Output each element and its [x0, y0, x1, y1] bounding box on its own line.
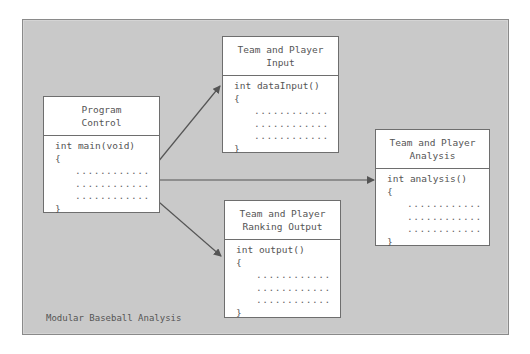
- module-team-player-ranking-output: Team and Player Ranking Output int outpu…: [224, 200, 341, 318]
- module-program-control: Program Control int main(void) { .......…: [43, 96, 160, 213]
- diagram-caption: Modular Baseball Analysis: [46, 313, 181, 323]
- close-brace: }: [55, 203, 159, 216]
- module-title: Team and Player Input: [223, 37, 338, 76]
- open-brace: {: [55, 153, 159, 166]
- function-signature: int analysis(): [387, 173, 489, 186]
- code-placeholder: ............: [234, 118, 338, 131]
- module-title: Team and Player Analysis: [376, 130, 489, 169]
- close-brace: }: [234, 143, 338, 156]
- code-placeholder: ............: [236, 269, 340, 282]
- module-body: int main(void) { ............ ..........…: [44, 136, 159, 215]
- module-team-player-input: Team and Player Input int dataInput() { …: [222, 36, 339, 153]
- code-placeholder: ............: [55, 165, 159, 178]
- open-brace: {: [236, 257, 340, 270]
- function-signature: int output(): [236, 244, 340, 257]
- code-placeholder: ............: [55, 178, 159, 191]
- code-placeholder: ............: [55, 190, 159, 203]
- module-title-line: Input: [266, 56, 295, 69]
- code-placeholder: ............: [234, 105, 338, 118]
- module-title-line: Program: [81, 103, 121, 116]
- arrow-to-input: [153, 86, 220, 168]
- function-signature: int dataInput(): [234, 80, 338, 93]
- close-brace: }: [387, 236, 489, 249]
- open-brace: {: [234, 93, 338, 106]
- code-placeholder: ............: [387, 211, 489, 224]
- module-title: Program Control: [44, 97, 159, 136]
- module-title-line: Team and Player: [390, 136, 476, 149]
- module-body: int output() { ............ ............…: [225, 240, 340, 319]
- module-body: int dataInput() { ............ .........…: [223, 76, 338, 155]
- code-placeholder: ............: [236, 282, 340, 295]
- module-title: Team and Player Ranking Output: [225, 201, 340, 240]
- arrow-to-output: [152, 196, 221, 256]
- module-title-line: Ranking Output: [242, 220, 322, 233]
- open-brace: {: [387, 186, 489, 199]
- code-placeholder: ............: [387, 223, 489, 236]
- module-title-line: Analysis: [410, 149, 456, 162]
- module-title-line: Team and Player: [240, 207, 326, 220]
- code-placeholder: ............: [234, 130, 338, 143]
- close-brace: }: [236, 307, 340, 320]
- module-body: int analysis() { ............ ..........…: [376, 169, 489, 248]
- module-title-line: Control: [81, 116, 121, 129]
- code-placeholder: ............: [236, 294, 340, 307]
- module-team-player-analysis: Team and Player Analysis int analysis() …: [375, 129, 490, 246]
- code-placeholder: ............: [387, 198, 489, 211]
- function-signature: int main(void): [55, 140, 159, 153]
- module-title-line: Team and Player: [238, 43, 324, 56]
